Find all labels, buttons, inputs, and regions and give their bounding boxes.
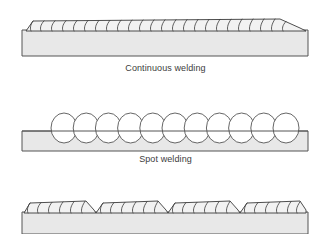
caption-spot-welding: Spot welding (0, 154, 331, 164)
panel-intermittent-welding (22, 201, 308, 234)
welding-diagram (0, 0, 331, 234)
weld-bead-continuous (26, 19, 306, 31)
panel-continuous-welding (22, 19, 308, 56)
plate-continuous (22, 30, 308, 56)
spot-weld-nuggets (51, 113, 299, 143)
plate-intermittent (22, 212, 308, 234)
spot-nugget (273, 113, 299, 143)
panel-spot-welding (22, 113, 308, 151)
caption-continuous-welding: Continuous welding (0, 63, 331, 73)
welding-figure: Continuous welding Spot welding (0, 0, 331, 234)
